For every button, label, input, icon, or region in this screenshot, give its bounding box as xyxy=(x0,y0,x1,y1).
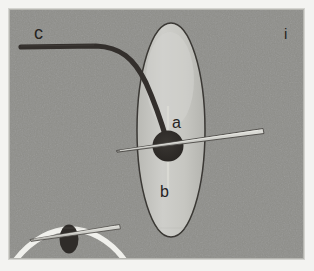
ultrasound-figure: c i a b xyxy=(0,0,314,271)
label-b: b xyxy=(160,183,169,200)
label-panel-i: i xyxy=(284,25,287,42)
oval-structure xyxy=(137,23,205,237)
image-content: c i a b xyxy=(9,9,304,262)
inset-target-icon xyxy=(60,225,79,254)
figure-container: c i a b xyxy=(0,0,314,271)
label-c: c xyxy=(34,23,43,43)
label-a: a xyxy=(172,114,181,131)
oval-inner-bright xyxy=(146,32,194,128)
